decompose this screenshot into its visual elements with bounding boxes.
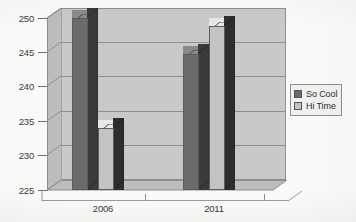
ytick-label-225: 225 [0,185,34,196]
chart-legend: So Cool Hi Time [290,84,342,116]
xtick-label-2006: 2006 [78,203,128,214]
ytick-mark-235 [38,121,47,122]
ytick-label-245: 245 [0,47,34,58]
chart-figure: 250 245 240 235 230 225 [0,0,356,222]
depth-connector-245 [46,41,64,53]
legend-swatch-so-cool-icon [294,90,302,98]
depth-connector-235 [46,110,64,122]
ytick-label-250: 250 [0,13,34,24]
x-axis-start-depth [41,190,55,202]
xtick-mark-right [264,194,265,201]
bar-so-cool-2006[interactable] [72,8,98,190]
legend-item-so-cool[interactable]: So Cool [294,88,337,100]
ytick-mark-250 [38,18,47,19]
legend-swatch-hi-time-icon [294,102,302,110]
bar-side-face [198,44,209,190]
legend-item-hi-time[interactable]: Hi Time [294,100,337,112]
ytick-label-240: 240 [0,81,34,92]
x-axis-end-depth [286,190,304,202]
legend-label-so-cool: So Cool [306,89,337,99]
depth-connector-240 [46,75,64,87]
bar-hi-time-2011[interactable] [209,16,235,190]
ytick-mark-245 [38,52,47,53]
ytick-label-235: 235 [0,116,34,127]
xtick-mark-middle [145,194,146,201]
plot-left-wall [47,8,62,190]
ytick-label-230: 230 [0,150,34,161]
bar-so-cool-2011[interactable] [183,44,209,190]
x-axis-line [42,200,288,201]
depth-connector-250 [46,7,64,19]
depth-connector-230 [46,144,64,156]
bar-side-face [113,118,124,190]
y-axis-line [47,18,48,191]
bar-side-face [224,16,235,190]
bar-side-face [87,8,98,190]
bar-hi-time-2006[interactable] [98,118,124,190]
ytick-mark-230 [38,155,47,156]
legend-label-hi-time: Hi Time [306,101,336,111]
xtick-label-2011: 2011 [189,203,239,214]
ytick-mark-240 [38,86,47,87]
